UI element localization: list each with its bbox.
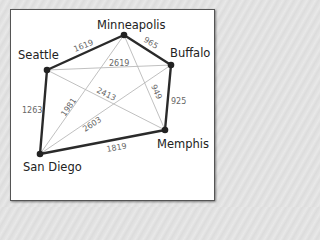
weight-buffalo-memphis: 925 bbox=[171, 97, 186, 106]
edge-seattle-memphis bbox=[47, 70, 165, 130]
node-san-diego bbox=[37, 151, 44, 158]
label-buffalo: Buffalo bbox=[170, 46, 210, 60]
label-minneapolis: Minneapolis bbox=[97, 18, 166, 32]
node-seattle bbox=[44, 67, 51, 74]
label-seattle: Seattle bbox=[18, 48, 59, 62]
weight-san-diego-seattle: 1263 bbox=[22, 106, 42, 115]
node-memphis bbox=[162, 127, 169, 134]
node-minneapolis bbox=[121, 32, 128, 39]
weight-seattle-minneapolis: 1619 bbox=[72, 38, 94, 54]
weight-minneapolis-san-diego: 1981 bbox=[59, 96, 78, 118]
weight-memphis-san-diego: 1819 bbox=[106, 142, 128, 154]
edge-memphis-san-diego bbox=[40, 130, 165, 154]
label-san-diego: San Diego bbox=[23, 160, 82, 174]
graph-diagram: Minneapolis Buffalo Seattle Memphis San … bbox=[0, 0, 223, 207]
weight-buffalo-san-diego: 2603 bbox=[81, 115, 103, 134]
weight-seattle-buffalo: 2619 bbox=[109, 59, 129, 68]
node-buffalo bbox=[168, 62, 175, 69]
label-memphis: Memphis bbox=[157, 137, 209, 151]
